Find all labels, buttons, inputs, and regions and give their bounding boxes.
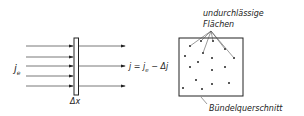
transmitted-intensity-label: j = je − Δj: [128, 62, 169, 73]
cross-section-label: Bündelquerschnitt: [209, 104, 283, 113]
beam-cross-section: [179, 38, 243, 96]
opaque-areas-label-line1: undurchlässige: [203, 9, 264, 18]
leader-lines: [190, 31, 234, 104]
absorber-slab: [74, 38, 79, 95]
incident-intensity-label: je: [12, 63, 21, 76]
thickness-label: Δx: [69, 97, 80, 106]
opaque-areas-label-line2: Flächen: [203, 20, 234, 29]
incident-rays: [26, 46, 73, 86]
transmitted-rays: [79, 46, 125, 86]
beam-attenuation-diagram: je Δx j = je − Δj undurchlässige Fläc: [0, 0, 304, 116]
opaque-spots: [182, 40, 235, 90]
